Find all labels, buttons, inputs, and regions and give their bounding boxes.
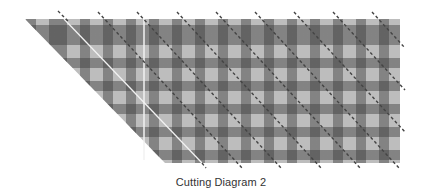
spacer-2: [178, 48, 220, 93]
cut-line-mid-b: [211, 140, 232, 164]
spacer-6: [211, 100, 215, 104]
cut-line-5: [216, 12, 360, 168]
cutting-diagram: Cutting Diagram 2: [0, 0, 422, 194]
cut-line-2: [98, 12, 242, 168]
cutting-lines-overlay: [0, 0, 422, 194]
cut-line-1-tail: [202, 163, 206, 168]
dashed-cut-lines: [0, 0, 405, 168]
spacer: [200, 100, 208, 108]
cut-line-1: [58, 11, 68, 21]
cut-line-3: [137, 12, 281, 168]
spacer-10: [398, 42, 405, 49]
cut-line-6: [255, 12, 399, 168]
cut-line-8: [333, 12, 405, 90]
diagonal-guide-line: [64, 19, 202, 163]
cut-line-4: [177, 12, 321, 168]
cut-line-9: [372, 12, 405, 48]
diagram-caption: Cutting Diagram 2: [0, 176, 422, 188]
cut-line-left-lower: [210, 80, 260, 134]
